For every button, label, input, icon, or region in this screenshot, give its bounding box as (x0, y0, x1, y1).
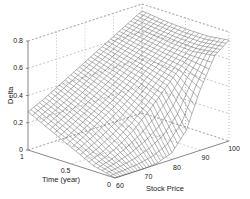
mesh-line (128, 24, 215, 56)
delta-surface-plot: 00.20.40.60.86070809010000.51 Delta Time… (0, 0, 250, 199)
mesh-line (98, 37, 212, 168)
mesh-line (89, 35, 203, 163)
mesh-line (115, 40, 229, 178)
mesh-line (54, 22, 168, 133)
mesh-line (54, 90, 141, 170)
x-tick-label: 80 (173, 164, 181, 171)
mesh-line (94, 54, 181, 139)
x-tick-label: 90 (202, 154, 210, 161)
mesh-line (72, 29, 186, 148)
x-axis-label: Stock Price (146, 184, 184, 193)
z-tick-label: 0.2 (13, 119, 23, 126)
mesh-line (91, 57, 178, 144)
x-tick-label: 100 (228, 145, 240, 152)
mesh-line (37, 15, 151, 119)
y-axis (28, 150, 115, 178)
y-tick-label: 0 (107, 181, 111, 188)
y-axis-label: Time (year) (42, 175, 80, 184)
mesh-line (32, 13, 146, 116)
y-tick-label: 1 (20, 153, 24, 160)
mesh-line (133, 19, 220, 50)
plot-canvas: 00.20.40.60.86070809010000.51 (0, 0, 250, 199)
mesh-line (125, 26, 212, 62)
x-tick-label: 60 (116, 182, 124, 189)
z-tick-label: 0.8 (13, 37, 23, 44)
mesh-line (57, 88, 144, 169)
z-axis-label: Delta (6, 86, 15, 104)
y-tick-label: 0.5 (61, 167, 71, 174)
mesh-line (131, 21, 218, 52)
z-tick-label: 0.6 (13, 64, 23, 71)
mesh-line (41, 17, 155, 123)
mesh-line (74, 72, 161, 160)
mesh-line (39, 103, 126, 175)
x-tick-label: 70 (145, 173, 153, 180)
z-tick-label: 0 (19, 146, 23, 153)
